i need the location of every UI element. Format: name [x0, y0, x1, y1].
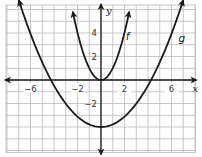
x-tick-label: −6 — [24, 84, 37, 94]
y-tick-label: 2 — [92, 52, 97, 62]
curve-g-label: g — [179, 32, 186, 44]
x-axis-label: x — [193, 83, 199, 94]
x-tick-label: 2 — [122, 84, 127, 94]
y-axis-label: y — [105, 5, 112, 16]
curve-arrow — [73, 12, 74, 15]
y-tick-label: 4 — [92, 28, 97, 38]
curve-arrow — [128, 12, 129, 15]
y-tick-label: −2 — [84, 99, 97, 109]
parabola-graph: −6−22642−2 x y f g — [0, 0, 202, 157]
x-tick-label: −2 — [71, 84, 84, 94]
x-tick-label: 6 — [169, 84, 174, 94]
curve-f-label: f — [126, 30, 132, 42]
